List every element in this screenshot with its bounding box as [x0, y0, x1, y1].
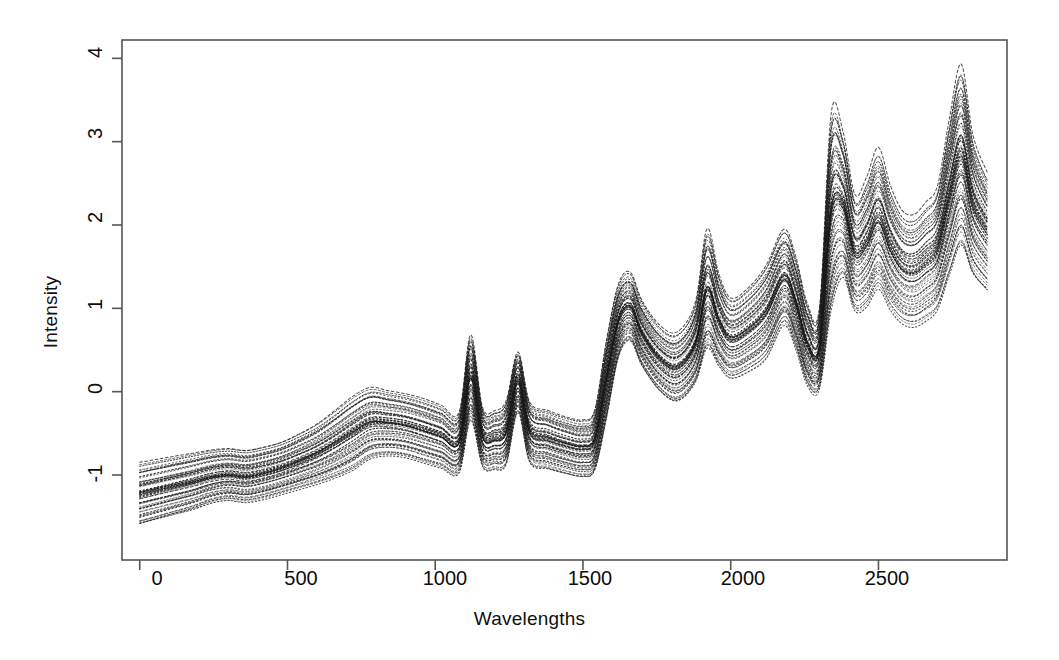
- spectrum-line: [140, 148, 987, 491]
- x-tick-label-0: 0: [151, 567, 162, 590]
- y-tick-label-0: 0: [84, 374, 107, 404]
- y-tick-label-4: 4: [84, 38, 107, 68]
- y-tick-label-neg1: -1: [84, 459, 107, 489]
- spectra-curves: [140, 64, 987, 524]
- spectrum-line: [140, 89, 987, 473]
- spectrum-line: [140, 135, 987, 485]
- spectrum-line: [140, 225, 987, 521]
- spectrum-line: [140, 214, 987, 512]
- spectrum-line: [140, 157, 987, 495]
- x-tick-label-1000: 1000: [423, 567, 468, 590]
- spectrum-line: [140, 76, 987, 466]
- plot-box-border: [122, 40, 1007, 560]
- x-tick-label-500: 500: [284, 567, 317, 590]
- x-axis-title: Wavelengths: [0, 608, 1059, 630]
- spectrum-line: [140, 123, 987, 484]
- spectrum-line: [140, 103, 987, 470]
- spectrum-line: [140, 80, 987, 465]
- spectrum-line: [140, 147, 987, 494]
- plot-frame: [122, 40, 1007, 560]
- spectrum-line: [140, 100, 987, 478]
- spectrum-line: [140, 138, 987, 492]
- spectrum-line: [140, 241, 987, 524]
- spectrum-line: [140, 172, 987, 499]
- spectrum-line: [140, 115, 987, 484]
- y-tick-label-1: 1: [84, 290, 107, 320]
- x-tick-label-1500: 1500: [568, 567, 613, 590]
- y-axis-title: Intensity: [40, 252, 62, 372]
- y-tick-label-2: 2: [84, 203, 107, 233]
- y-tick-label-3: 3: [84, 119, 107, 149]
- spectrum-line: [140, 242, 987, 523]
- spectrum-line: [140, 127, 987, 487]
- spectrum-line: [140, 226, 987, 518]
- x-tick-label-2500: 2500: [865, 567, 910, 590]
- spectrum-line: [140, 137, 987, 486]
- spectra-figure: 0 500 1000 1500 2000 2500 -1 0 1 2 3 4 W…: [0, 0, 1059, 660]
- plot-canvas: [0, 0, 1059, 660]
- spectrum-line: [140, 75, 987, 470]
- spectrum-line: [140, 135, 987, 486]
- x-tick-label-2000: 2000: [721, 567, 766, 590]
